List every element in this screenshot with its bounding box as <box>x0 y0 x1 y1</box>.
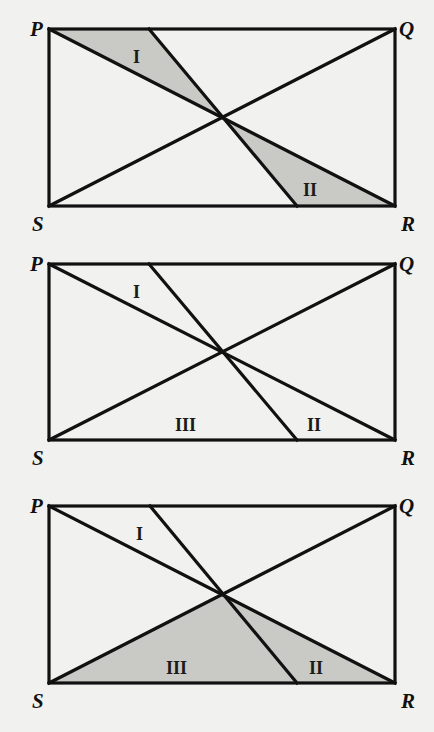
vertex-s-label: S <box>32 446 44 470</box>
region-i-label: I <box>133 282 140 302</box>
vertex-p-label: P <box>29 252 43 276</box>
region-ii-iii-shading <box>49 595 395 683</box>
vertex-s-label: S <box>32 689 44 713</box>
vertex-r-label: R <box>400 689 415 713</box>
geometry-figure: P Q S R I II P Q S R I II III P Q S R I … <box>0 0 434 732</box>
panel-2: P Q S R I II III <box>29 252 415 470</box>
vertex-s-label: S <box>32 212 44 236</box>
panel-1: P Q S R I II <box>29 17 415 236</box>
region-ii-label: II <box>309 658 323 678</box>
vertex-q-label: Q <box>399 494 414 518</box>
region-i-label: I <box>136 524 143 544</box>
region-ii-label: II <box>303 180 317 200</box>
vertex-q-label: Q <box>399 17 414 41</box>
region-ii-label: II <box>307 415 321 435</box>
region-iii-label: III <box>175 415 196 435</box>
region-i-label: I <box>133 47 140 67</box>
vertex-p-label: P <box>29 494 43 518</box>
region-iii-label: III <box>166 658 187 678</box>
vertex-q-label: Q <box>399 252 414 276</box>
vertex-p-label: P <box>29 17 43 41</box>
cut-segment <box>149 29 297 206</box>
panel-3: P Q S R I II III <box>29 494 415 713</box>
vertex-r-label: R <box>400 212 415 236</box>
vertex-r-label: R <box>400 446 415 470</box>
cut-segment <box>149 264 297 440</box>
